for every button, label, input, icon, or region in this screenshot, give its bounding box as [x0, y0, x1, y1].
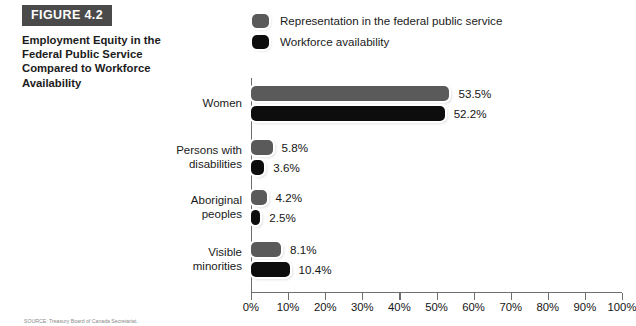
x-axis-tick — [585, 293, 586, 300]
x-axis-tick — [288, 293, 289, 300]
chart-bar-row: 10.4% — [251, 262, 331, 277]
x-axis-tick — [325, 293, 326, 300]
x-axis-tick-label: 50% — [425, 301, 448, 313]
x-axis-tick-label: 70% — [499, 301, 522, 313]
chart-bar — [251, 160, 264, 175]
category-label: Persons withdisabilities — [122, 144, 242, 171]
x-axis-tick-label: 40% — [388, 301, 411, 313]
x-axis-tick-label: 80% — [536, 301, 559, 313]
legend-label-representation: Representation in the federal public ser… — [280, 14, 502, 27]
chart-bar-row: 8.1% — [251, 242, 316, 257]
legend-item-workforce: Workforce availability — [252, 31, 502, 52]
bar-value-label: 10.4% — [299, 263, 332, 276]
x-axis-tick — [511, 293, 512, 300]
x-axis-tick — [474, 293, 475, 300]
category-label: Visibleminorities — [122, 246, 242, 273]
chart-bar-row: 52.2% — [251, 106, 487, 121]
x-axis-tick-label: 30% — [351, 301, 374, 313]
x-axis-tick-label: 100% — [608, 301, 636, 313]
chart-bar — [251, 262, 290, 277]
chart-bar-row: 4.2% — [251, 190, 302, 205]
figure-number-badge: FIGURE 4.2 — [22, 5, 112, 26]
category-label-line: peoples — [122, 208, 242, 222]
legend-swatch-workforce-icon — [252, 35, 269, 49]
legend-item-representation: Representation in the federal public ser… — [252, 10, 502, 31]
chart-bar-row: 5.8% — [251, 140, 308, 155]
category-label: Women — [122, 97, 242, 111]
chart-bar — [251, 106, 445, 121]
x-axis-tick-label: 10% — [277, 301, 300, 313]
x-axis-tick-label: 20% — [314, 301, 337, 313]
bar-value-label: 8.1% — [290, 243, 316, 256]
bar-value-label: 2.5% — [269, 211, 295, 224]
category-label-line: minorities — [122, 260, 242, 274]
x-axis-tick-label: 0% — [243, 301, 259, 313]
chart-bar-row: 3.6% — [251, 160, 300, 175]
bar-value-label: 4.2% — [276, 191, 302, 204]
x-axis-tick-label: 60% — [462, 301, 485, 313]
chart-bar — [251, 190, 267, 205]
category-label-line: disabilities — [122, 158, 242, 172]
x-axis-tick — [437, 293, 438, 300]
x-axis-tick — [251, 293, 252, 300]
x-axis-tick — [548, 293, 549, 300]
chart-bar — [251, 210, 260, 225]
chart-legend: Representation in the federal public ser… — [252, 10, 502, 52]
category-label-line: Visible — [122, 246, 242, 260]
chart-bar-row: 53.5% — [251, 86, 491, 101]
chart-bar — [251, 140, 273, 155]
x-axis-tick — [399, 293, 400, 300]
chart-bar — [251, 242, 281, 257]
legend-swatch-representation-icon — [252, 14, 269, 28]
bar-value-label: 53.5% — [458, 87, 491, 100]
category-label-line: Aboriginal — [122, 194, 242, 208]
bar-value-label: 5.8% — [282, 141, 308, 154]
category-label-line: Women — [122, 97, 242, 111]
chart-bar-row: 2.5% — [251, 210, 296, 225]
source-note: SOURCE: Treasury Board of Canada Secreta… — [24, 318, 138, 324]
category-label: Aboriginalpeoples — [122, 194, 242, 221]
bar-value-label: 3.6% — [273, 161, 299, 174]
x-axis-tick — [622, 293, 623, 300]
chart-plot-area: 0%10%20%30%40%50%60%70%80%90%100% Women5… — [0, 78, 633, 326]
category-label-line: Persons with — [122, 144, 242, 158]
chart-bar — [251, 86, 449, 101]
figure-caption-block: FIGURE 4.2 Employment Equity in the Fede… — [0, 0, 170, 90]
x-axis-tick — [362, 293, 363, 300]
x-axis-tick-label: 90% — [574, 301, 597, 313]
bar-value-label: 52.2% — [454, 107, 487, 120]
legend-label-workforce: Workforce availability — [280, 35, 389, 48]
